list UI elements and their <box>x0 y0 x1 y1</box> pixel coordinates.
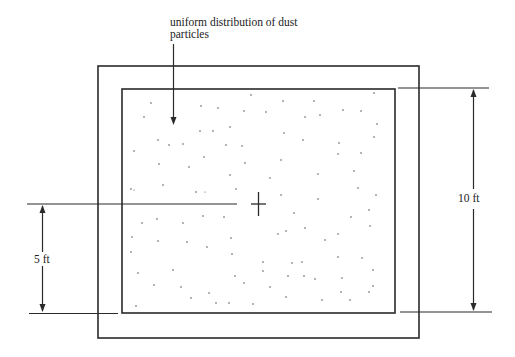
crosshair-icon <box>251 192 266 216</box>
dust-particles <box>130 92 378 307</box>
room-diagram <box>0 0 515 357</box>
dimension-label-5ft: 5 ft <box>34 253 50 265</box>
dimension-label-10ft: 10 ft <box>458 192 479 204</box>
annotation-label-line1: uniform distribution of dust <box>170 16 297 28</box>
annotation-label-line2: particles <box>170 28 209 40</box>
annotation-arrow <box>171 44 177 125</box>
